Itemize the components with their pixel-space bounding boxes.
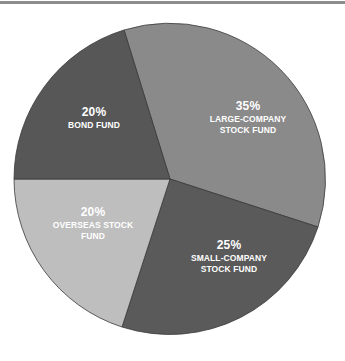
slice-label-bond: 20% BOND FUND [68,105,120,131]
label-line: BOND FUND [68,120,120,131]
pie-chart [0,0,345,361]
label-line: FUND [53,231,134,242]
label-line: STOCK FUND [191,264,267,275]
pct-label: 35% [210,99,287,114]
label-line: OVERSEAS STOCK [53,220,134,231]
pct-label: 20% [68,105,120,120]
slice-label-overseas: 20% OVERSEAS STOCK FUND [53,205,134,242]
slice-label-small: 25% SMALL-COMPANY STOCK FUND [191,238,267,275]
slice-label-large: 35% LARGE-COMPANY STOCK FUND [210,99,287,136]
label-line: LARGE-COMPANY [210,114,287,125]
label-line: STOCK FUND [210,125,287,136]
label-line: SMALL-COMPANY [191,253,267,264]
pct-label: 25% [191,238,267,253]
pct-label: 20% [53,205,134,220]
